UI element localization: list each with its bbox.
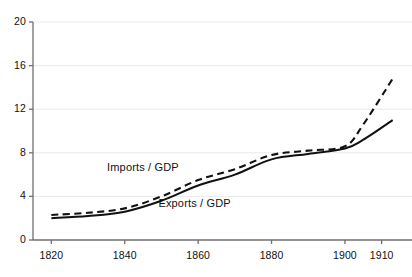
axis-ticks [29, 22, 382, 244]
y-tick-label: 12 [0, 102, 26, 114]
chart-canvas [0, 0, 412, 277]
x-tick-label: 1910 [358, 249, 406, 261]
y-tick-label: 16 [0, 59, 26, 71]
y-tick-label: 4 [0, 189, 26, 201]
x-tick-label: 1880 [248, 249, 296, 261]
chart-container: 048121620 182018401860188019001910 Impor… [0, 0, 412, 277]
series-line-1 [51, 79, 392, 215]
gridlines [33, 22, 412, 196]
y-tick-label: 8 [0, 146, 26, 158]
series-annotation-2: Exports / GDP [158, 197, 230, 209]
y-tick-label: 20 [0, 15, 26, 27]
x-tick-label: 1820 [27, 249, 75, 261]
series-annotation-1: Imports / GDP [107, 161, 179, 173]
x-tick-label: 1860 [174, 249, 222, 261]
y-tick-label: 0 [0, 233, 26, 245]
x-tick-label: 1840 [101, 249, 149, 261]
